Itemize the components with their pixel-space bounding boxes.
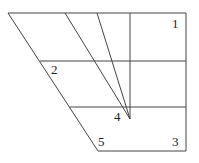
ray-inner [97,13,130,119]
label-3: 3 [172,134,179,149]
geometric-diagram: 1 2 4 5 3 [0,0,199,163]
ray-outer [65,13,130,119]
label-5: 5 [98,134,105,149]
label-1: 1 [172,16,179,31]
outer-trapezoid [8,13,186,151]
label-4: 4 [114,109,121,124]
label-2: 2 [51,62,58,77]
